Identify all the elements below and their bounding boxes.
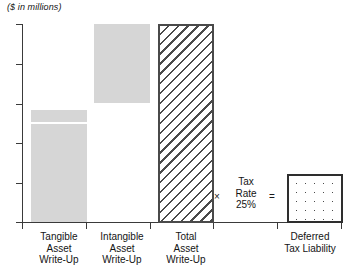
category-label-intangible-asset-write-up: Intangible Asset Write-Up — [90, 231, 154, 266]
category-label-tangible-line-2: Asset — [27, 243, 91, 255]
y-axis-tick-4 — [16, 183, 23, 184]
category-label-intangible-line-2: Asset — [90, 243, 154, 255]
tax-rate-annotation: Tax Rate 25% — [224, 176, 268, 211]
y-axis-tick-top — [16, 24, 23, 25]
tax-rate-line-2: Rate — [224, 188, 268, 200]
category-label-deferred-tax-liability: Deferred Tax Liability — [272, 231, 348, 254]
category-label-total-line-2: Asset — [154, 243, 218, 255]
plot-area: × Tax Rate 25% = — [0, 0, 350, 268]
category-label-tangible-line-1: Tangible — [27, 231, 91, 243]
category-label-tangible-asset-write-up: Tangible Asset Write-Up — [27, 231, 91, 266]
equals-operator-icon: = — [269, 191, 275, 202]
waterfall-chart: ($ in millions) × Tax Rate 25% — [0, 0, 350, 268]
tax-rate-line-3: 25% — [224, 199, 268, 211]
bar-tangible-divider — [31, 122, 87, 124]
x-axis-sep-4 — [277, 222, 278, 229]
x-axis-sep-0 — [22, 222, 23, 229]
y-axis-tick-2 — [16, 104, 23, 105]
category-label-total-line-3: Write-Up — [154, 254, 218, 266]
y-axis-tick-1 — [16, 64, 23, 65]
bar-deferred-tax-liability — [287, 174, 343, 223]
category-label-total-line-1: Total — [154, 231, 218, 243]
tax-rate-line-1: Tax — [224, 176, 268, 188]
category-label-tangible-line-3: Write-Up — [27, 254, 91, 266]
x-axis-sep-3 — [213, 222, 214, 229]
category-label-deferred-line-2: Tax Liability — [272, 243, 348, 255]
bar-tangible-asset-write-up — [31, 110, 87, 222]
category-label-total-asset-write-up: Total Asset Write-Up — [154, 231, 218, 266]
category-label-intangible-line-3: Write-Up — [90, 254, 154, 266]
category-label-intangible-line-1: Intangible — [90, 231, 154, 243]
x-axis-sep-2 — [150, 222, 151, 229]
y-axis-tick-3 — [16, 143, 23, 144]
bar-intangible-asset-write-up — [94, 24, 150, 103]
x-axis-sep-5 — [341, 222, 342, 229]
x-axis-sep-1 — [86, 222, 87, 229]
multiply-operator-icon: × — [214, 191, 220, 202]
bar-total-asset-write-up — [158, 24, 214, 223]
category-label-deferred-line-1: Deferred — [272, 231, 348, 243]
y-axis-line — [22, 24, 23, 223]
